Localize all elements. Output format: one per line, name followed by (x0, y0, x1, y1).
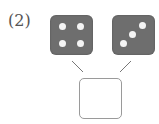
right-connector-line (120, 61, 131, 72)
answer-box[interactable] (79, 78, 122, 119)
left-connector-line (72, 61, 83, 72)
